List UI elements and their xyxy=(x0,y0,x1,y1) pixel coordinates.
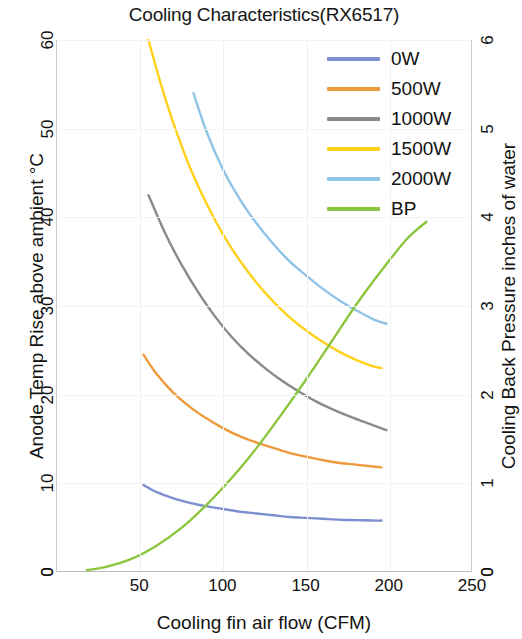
series-line-500w xyxy=(144,355,382,468)
legend-swatch-icon xyxy=(327,147,380,151)
legend-swatch-icon xyxy=(327,117,380,121)
legend-label: 2000W xyxy=(391,169,451,188)
legend-swatch-icon xyxy=(327,87,380,91)
y-axis-title: Anode Temp Rise above ambient °C xyxy=(26,40,48,572)
legend-label: 1500W xyxy=(391,139,451,158)
x-tick-label: 100 xyxy=(200,576,244,596)
y2-tick-label: 4 xyxy=(478,203,498,231)
legend-label: 0W xyxy=(391,49,420,68)
y2-tick-label: 2 xyxy=(478,381,498,409)
x-axis-title: Cooling fin air flow (CFM) xyxy=(56,612,472,634)
gridline-horizontal xyxy=(57,40,471,41)
legend-item-0w[interactable]: 0W xyxy=(327,44,459,73)
series-line-0w xyxy=(144,485,382,520)
gridline-horizontal xyxy=(57,395,471,396)
legend-item-bp[interactable]: BP xyxy=(327,194,459,223)
y2-axis-title: Cooling Back Pressure inches of water xyxy=(498,40,520,572)
series-line-bp xyxy=(87,222,426,570)
legend-swatch-icon xyxy=(327,177,380,181)
x-tick-label: 50 xyxy=(117,576,161,596)
y2-tick-label: 5 xyxy=(478,115,498,143)
y2-tick-label: 6 xyxy=(478,26,498,54)
y2-tick-label-zero: 0 xyxy=(478,558,498,586)
legend-swatch-icon xyxy=(327,57,380,61)
gridline-horizontal xyxy=(57,306,471,307)
legend-label: 1000W xyxy=(391,109,451,128)
legend-swatch-icon xyxy=(327,207,380,211)
y2-tick-label: 1 xyxy=(478,469,498,497)
legend-label: 500W xyxy=(391,79,441,98)
x-tick-label: 150 xyxy=(284,576,328,596)
legend-label: BP xyxy=(391,199,416,218)
x-tick-label: 200 xyxy=(367,576,411,596)
legend-item-1500w[interactable]: 1500W xyxy=(327,134,459,163)
chart-legend: 0W500W1000W1500W2000WBP xyxy=(327,44,459,223)
legend-item-1000w[interactable]: 1000W xyxy=(327,104,459,133)
chart-figure: Cooling Characteristics(RX6517) 01020304… xyxy=(0,0,522,639)
chart-title: Cooling Characteristics(RX6517) xyxy=(56,4,472,26)
y2-tick-label: 3 xyxy=(478,292,498,320)
legend-item-2000w[interactable]: 2000W xyxy=(327,164,459,193)
legend-item-500w[interactable]: 500W xyxy=(327,74,459,103)
gridline-horizontal xyxy=(57,483,471,484)
